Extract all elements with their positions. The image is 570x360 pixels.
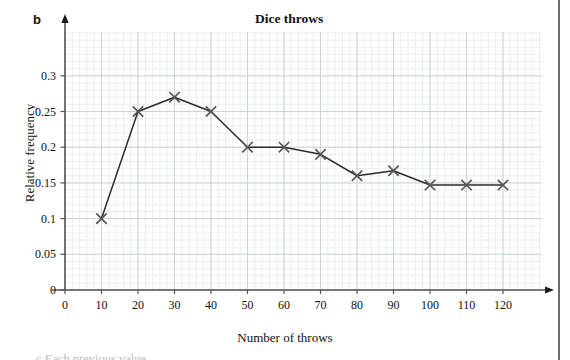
y-tick-label: 0.3 <box>8 68 56 83</box>
x-tick-label: 120 <box>494 298 512 313</box>
x-tick-label: 0 <box>62 298 68 313</box>
x-tick-label: 80 <box>351 298 363 313</box>
x-tick-label: 70 <box>315 298 327 313</box>
x-tick-label: 30 <box>169 298 181 313</box>
x-tick-label: 60 <box>278 298 290 313</box>
x-axis-title: Number of throws <box>135 330 435 346</box>
y-tick-label: 0.2 <box>8 140 56 155</box>
y-tick-label: 0.15 <box>8 175 56 190</box>
x-tick-label: 100 <box>421 298 439 313</box>
caption-sliver: c Each previous value. ... <box>36 352 366 360</box>
x-tick-label: 50 <box>242 298 254 313</box>
y-tick-label: 0.1 <box>8 211 56 226</box>
y-tick-label: 0.25 <box>8 104 56 119</box>
x-tick-label: 110 <box>458 298 476 313</box>
x-tick-label: 20 <box>132 298 144 313</box>
x-tick-label: 40 <box>205 298 217 313</box>
x-tick-label: 10 <box>96 298 108 313</box>
page-edge-line <box>558 0 560 360</box>
x-tick-label: 90 <box>388 298 400 313</box>
y-tick-label: 0 <box>8 283 56 298</box>
figure-dice-throws: b Dice throws Relative frequency Number … <box>0 0 570 360</box>
y-tick-label: 0.05 <box>8 247 56 262</box>
